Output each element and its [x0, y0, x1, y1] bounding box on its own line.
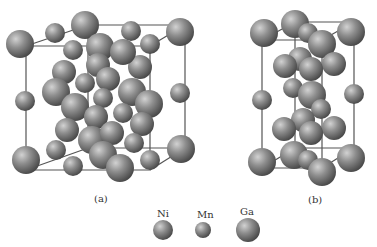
- panel-b-label: (b): [308, 194, 322, 205]
- legend-atoms: [153, 218, 260, 242]
- legend-mn-atom-icon: [195, 222, 211, 238]
- figure: (a) (b) Ni Mn Ga: [0, 0, 377, 247]
- crystal-structure-figure: [0, 0, 377, 247]
- legend-ni-atom-icon: [153, 220, 173, 240]
- legend-ni-label: Ni: [157, 208, 169, 219]
- panel-b-atoms: [248, 10, 365, 186]
- legend-mn-label: Mn: [197, 209, 214, 220]
- legend-ga-atom-icon: [236, 218, 260, 242]
- panel-a-label: (a): [94, 193, 108, 204]
- legend-ga-label: Ga: [240, 206, 254, 217]
